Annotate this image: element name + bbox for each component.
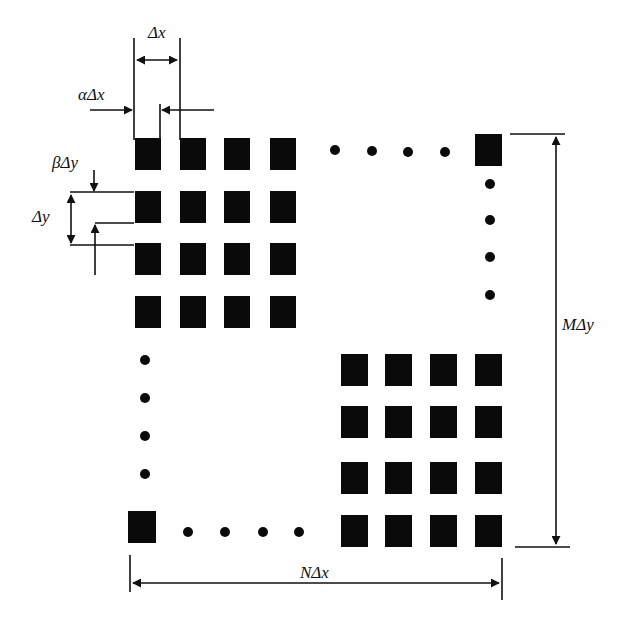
array-element: [135, 138, 161, 170]
array-element: [135, 243, 161, 275]
ellipsis-dot-right: [485, 252, 495, 262]
array-element: [475, 515, 502, 547]
ellipsis-dot-right: [485, 215, 495, 225]
array-element: [430, 354, 457, 386]
ellipsis-dot-bottom: [258, 527, 268, 537]
ellipsis-dot-bottom: [220, 527, 230, 537]
array-element: [180, 296, 206, 328]
array-element: [430, 406, 457, 438]
dx-label: Δx: [147, 23, 166, 42]
array-diagram: Δx αΔx βΔy Δy MΔy NΔx: [0, 0, 634, 627]
ellipsis-dot-top: [403, 147, 413, 157]
m-dy-label: MΔy: [561, 315, 594, 334]
array-element: [475, 354, 502, 386]
array-element: [180, 191, 206, 223]
ellipsis-dot-top: [440, 147, 450, 157]
n-dx-label: NΔx: [299, 563, 329, 582]
array-element: [341, 462, 368, 494]
array-element: [270, 138, 296, 170]
ellipsis-dot-left: [140, 393, 150, 403]
ellipsis-dot-left: [140, 431, 150, 441]
array-element: [341, 406, 368, 438]
ellipsis-dot-right: [485, 179, 495, 189]
alpha-dx-label: αΔx: [78, 85, 105, 104]
ellipsis-dot-top: [367, 146, 377, 156]
ellipsis-dot-bottom: [183, 527, 193, 537]
array-element: [475, 462, 502, 494]
array-element: [385, 515, 412, 547]
array-element: [224, 191, 250, 223]
array-element: [475, 406, 502, 438]
array-element: [224, 296, 250, 328]
array-element: [180, 138, 206, 170]
array-element: [270, 296, 296, 328]
ellipsis-dot-right: [485, 290, 495, 300]
dx-dimension: [134, 38, 180, 140]
array-element: [224, 138, 250, 170]
bottom-left-element: [128, 511, 156, 543]
beta-dy-label: βΔy: [51, 153, 78, 172]
array-element: [135, 191, 161, 223]
array-element: [224, 243, 250, 275]
array-element: [270, 191, 296, 223]
array-element: [270, 243, 296, 275]
m-dy-dimension: [510, 134, 570, 547]
array-element: [430, 462, 457, 494]
dy-label: Δy: [31, 207, 50, 226]
top-right-element: [475, 134, 502, 166]
alpha-dx-dimension: [90, 104, 214, 140]
array-element: [385, 406, 412, 438]
array-element: [430, 515, 457, 547]
array-element: [341, 354, 368, 386]
ellipsis-dot-left: [140, 469, 150, 479]
ellipsis-dot-bottom: [294, 527, 304, 537]
array-element: [341, 515, 368, 547]
top-left-element-grid: [135, 138, 296, 328]
bottom-right-element-grid: [341, 354, 502, 547]
array-element: [180, 243, 206, 275]
array-element: [385, 462, 412, 494]
ellipsis-dot-top: [330, 145, 340, 155]
array-element: [385, 354, 412, 386]
ellipsis-dot-left: [140, 355, 150, 365]
array-element: [135, 296, 161, 328]
dy-dimension: [70, 170, 134, 275]
